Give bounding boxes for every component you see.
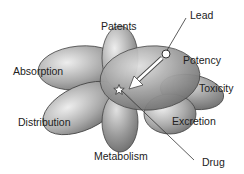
label-distribution: Distribution bbox=[18, 117, 71, 128]
label-patents: Patents bbox=[101, 21, 137, 32]
label-lead: Lead bbox=[190, 10, 213, 21]
label-metabolism: Metabolism bbox=[94, 151, 148, 162]
lead-circle-icon bbox=[162, 50, 170, 58]
label-excretion: Excretion bbox=[172, 116, 216, 127]
label-drug: Drug bbox=[202, 157, 225, 168]
label-absorption: Absorption bbox=[13, 66, 63, 77]
label-potency: Potency bbox=[183, 55, 221, 66]
diagram-canvas: Patents Lead Potency Toxicity Absorption… bbox=[0, 0, 244, 174]
lead-pointer-line bbox=[166, 18, 186, 52]
label-toxicity: Toxicity bbox=[199, 83, 233, 94]
